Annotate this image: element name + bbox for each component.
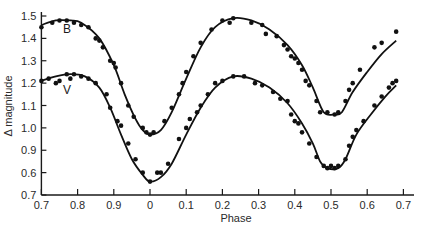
data-point (347, 88, 352, 93)
data-point (209, 27, 214, 32)
fit-curve (41, 74, 396, 181)
data-point (271, 90, 276, 95)
series-v: V (39, 72, 398, 184)
data-point (296, 121, 301, 126)
data-point (300, 130, 305, 135)
data-point (115, 119, 120, 124)
data-point (260, 83, 265, 88)
x-tick-label: 0.7 (396, 199, 411, 211)
data-point (336, 164, 341, 169)
data-point (39, 79, 44, 84)
data-point (119, 123, 124, 128)
axes: 1.51.41.31.21.11.00.90.60.70.70.80.900.1… (21, 10, 414, 211)
data-point (133, 157, 138, 162)
series-label-v: V (63, 83, 71, 97)
data-point (148, 179, 153, 184)
data-point (131, 114, 136, 119)
y-tick-label: 1.4 (21, 32, 36, 44)
data-point (307, 83, 312, 88)
data-point (372, 45, 377, 50)
data-point (282, 43, 287, 48)
y-tick-label: 1.2 (21, 77, 36, 89)
data-point (394, 79, 399, 84)
data-point (296, 61, 301, 66)
x-tick-label: 0.6 (360, 199, 375, 211)
fit-curve (41, 18, 396, 135)
data-point (372, 103, 377, 108)
data-point (213, 81, 218, 86)
x-tick-label: 0 (147, 199, 153, 211)
light-curve-chart: 1.51.41.31.21.11.00.90.60.70.70.80.900.1… (0, 0, 428, 229)
data-point (206, 92, 211, 97)
data-point (260, 23, 265, 28)
x-tick-label: 0.5 (323, 199, 338, 211)
data-point (101, 45, 106, 50)
data-point (274, 34, 279, 39)
data-point (314, 99, 319, 104)
data-point (249, 20, 254, 25)
data-point (93, 81, 98, 86)
data-point (126, 141, 131, 146)
data-point (79, 23, 84, 28)
data-point (113, 65, 118, 70)
x-tick-label: 0.1 (179, 199, 194, 211)
data-point (264, 32, 269, 37)
x-tick-label: 0.9 (106, 199, 121, 211)
data-point (39, 25, 44, 30)
data-point (57, 79, 62, 84)
data-point (140, 126, 145, 131)
data-point (50, 20, 55, 25)
data-point (379, 41, 384, 46)
y-tick-label: 0.6 (21, 167, 36, 179)
data-point (300, 67, 305, 72)
data-point (169, 105, 174, 110)
x-tick-label: 0.3 (251, 199, 266, 211)
data-point (379, 94, 384, 99)
data-point (177, 137, 182, 142)
x-axis-title: Phase (220, 212, 251, 224)
data-point (188, 117, 193, 122)
data-point (307, 141, 312, 146)
data-point (184, 126, 189, 131)
data-point (198, 103, 203, 108)
data-point (177, 92, 182, 97)
data-point (97, 38, 102, 43)
data-point (159, 170, 164, 175)
x-tick-label: 0.7 (34, 199, 49, 211)
data-point (86, 76, 91, 81)
data-point (195, 110, 200, 115)
y-tick-label: 0.9 (21, 144, 36, 156)
data-point (350, 81, 355, 86)
data-point (126, 103, 131, 108)
data-point (314, 155, 319, 160)
data-point (220, 79, 225, 84)
series-label-b: B (63, 22, 71, 36)
data-point (336, 110, 341, 115)
data-point (285, 47, 290, 52)
data-point (354, 128, 359, 133)
data-point (64, 72, 69, 77)
data-point (361, 119, 366, 124)
data-point (231, 74, 236, 79)
data-point (343, 99, 348, 104)
data-point (119, 81, 124, 86)
data-point (231, 16, 236, 21)
data-point (394, 29, 399, 34)
data-point (108, 105, 113, 110)
data-point (86, 25, 91, 30)
data-point (72, 72, 77, 77)
data-point (57, 18, 62, 23)
data-point (350, 135, 355, 140)
data-point (104, 92, 109, 97)
data-point (227, 20, 232, 25)
data-point (293, 56, 298, 61)
data-point (303, 79, 308, 84)
data-point (180, 81, 185, 86)
data-point (318, 110, 323, 115)
data-point (191, 54, 196, 59)
data-point (289, 112, 294, 117)
data-point (358, 67, 363, 72)
data-point (166, 161, 171, 166)
data-point (253, 81, 258, 86)
data-point (140, 170, 145, 175)
